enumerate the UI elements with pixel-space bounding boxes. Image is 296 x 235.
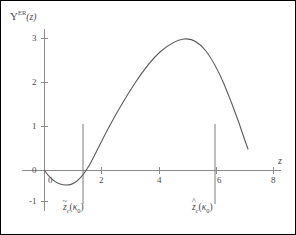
x-axis-title: z — [278, 156, 282, 166]
annotation-z-hat-c: z^c(κ0) — [192, 203, 213, 213]
y-tick-label-minus-1: -1 — [29, 197, 37, 206]
x-tick-label-8: 8 — [271, 176, 276, 185]
z-hat-glyph: z^ — [192, 203, 196, 213]
y-tick-label-0: 0 — [32, 166, 37, 175]
z-tilde-paren-close: ) — [81, 202, 84, 212]
chart-figure: YER(z) z 3 2 1 0 -1 0 2 4 6 8 z~c(κ0) z^… — [0, 0, 296, 235]
x-tick-label-0: 0 — [48, 176, 53, 185]
chart-plot-area — [1, 1, 296, 235]
x-tick-label-4: 4 — [157, 176, 162, 185]
y-axis-title-argument: (z) — [26, 12, 36, 22]
y-tick-label-1: 1 — [32, 122, 37, 131]
y-tick-label-2: 2 — [32, 78, 37, 87]
hat-accent-icon: ^ — [192, 197, 196, 206]
curve-y-er — [45, 39, 249, 185]
tilde-accent-icon: ~ — [62, 197, 67, 206]
x-tick-label-2: 2 — [99, 176, 104, 185]
z-tilde-glyph: z~ — [63, 203, 67, 213]
annotation-z-tilde-c: z~c(κ0) — [63, 203, 84, 213]
x-tick-label-6: 6 — [217, 176, 222, 185]
z-hat-paren-close: ) — [210, 202, 213, 212]
y-axis-title-base: Y — [10, 10, 18, 22]
y-axis-title: YER(z) — [10, 11, 36, 23]
y-tick-label-3: 3 — [32, 34, 37, 43]
